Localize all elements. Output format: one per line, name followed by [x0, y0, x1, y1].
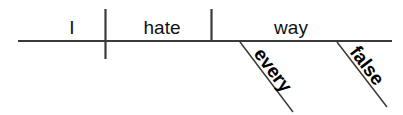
modifier-word-false: false [346, 42, 389, 89]
sentence-diagram-svg: I hate way every false [0, 0, 403, 115]
sentence-diagram-canvas: I hate way every false [0, 0, 403, 115]
word-object: way [273, 17, 308, 38]
modifier-word-every: every [250, 44, 297, 97]
word-verb: hate [144, 17, 181, 38]
word-subject: I [69, 17, 74, 38]
